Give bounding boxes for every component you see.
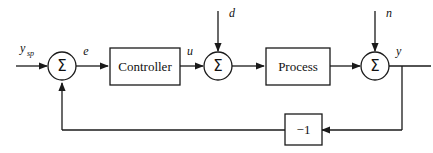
signal-label-setpoint: y xyxy=(19,41,26,55)
controller-block-label: Controller xyxy=(118,59,172,74)
signal-label-control-effort: u xyxy=(187,44,193,58)
signal-label-setpoint-subscript: sp xyxy=(27,49,34,58)
summer-2-glyph: Σ xyxy=(213,57,222,75)
gain-block-label: −1 xyxy=(297,122,311,137)
summer-3-glyph: Σ xyxy=(370,57,379,75)
signal-label-output: y xyxy=(395,44,402,58)
process-block-label: Process xyxy=(278,59,318,74)
signal-label-error: e xyxy=(83,44,89,58)
block-diagram-svg: Σ Σ Σ Controller Process −1 y sp e u d n… xyxy=(0,0,433,153)
signal-label-disturbance: d xyxy=(229,6,236,20)
signal-label-noise: n xyxy=(386,6,392,20)
block-diagram-canvas: Σ Σ Σ Controller Process −1 y sp e u d n… xyxy=(0,0,433,153)
summer-1-glyph: Σ xyxy=(57,57,66,75)
